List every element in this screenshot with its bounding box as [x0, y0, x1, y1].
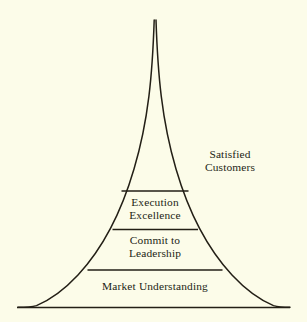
tier-label-execution-excellence: Execution Excellence [103, 196, 207, 222]
tier-label-satisfied-customers: Satisfied Customers [178, 148, 282, 174]
bell-curve-left-edge [18, 20, 154, 307]
tier-label-commit-to-leadership: Commit to Leadership [103, 234, 207, 260]
bell-pyramid-diagram: Satisfied Customers Execution Excellence… [0, 0, 307, 322]
tier-label-market-understanding: Market Understanding [63, 280, 247, 293]
